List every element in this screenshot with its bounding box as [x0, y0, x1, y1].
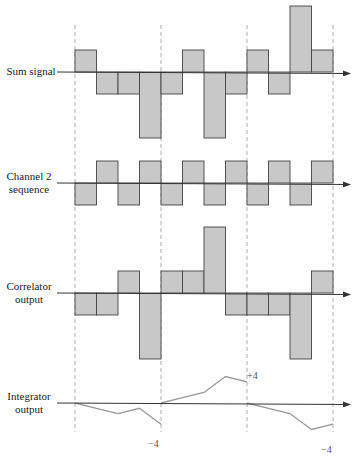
chip-bar [312, 271, 334, 293]
chip-bar [97, 293, 119, 315]
integrator-output-label: Integrator output [2, 390, 56, 416]
integrator-output-waveform [57, 377, 350, 430]
chip-bar [75, 50, 97, 72]
chip-bar [118, 271, 140, 293]
chip-bar [247, 50, 269, 72]
chip-bar [204, 183, 226, 205]
sum-signal-label: Sum signal [4, 65, 58, 78]
sum-signal-waveform [57, 6, 350, 138]
integrator-value-bit3: −4 [321, 444, 332, 455]
chip-bar [226, 161, 248, 183]
chip-bar [269, 161, 291, 183]
correlator-output-label: Correlator output [2, 280, 56, 306]
chip-bar [118, 183, 140, 205]
chip-bar [204, 227, 226, 293]
channel-2-sequence-waveform [57, 161, 350, 205]
integrator-value-bit2: +4 [247, 370, 258, 381]
chip-bar [290, 293, 312, 359]
chip-bar [140, 72, 162, 138]
integrator-ramp [75, 403, 161, 424]
integrator-output-axis [57, 403, 350, 405]
channel-2-label-line1: Channel 2 [2, 170, 56, 183]
chip-bar [97, 72, 119, 94]
chip-bar [161, 183, 183, 205]
chip-bar [290, 183, 312, 205]
chip-bar [75, 293, 97, 315]
chip-bar [226, 293, 248, 315]
chip-bar [161, 72, 183, 94]
integrator-ramp [247, 403, 333, 430]
signal-rows [57, 6, 350, 430]
chip-bar [226, 72, 248, 94]
chip-bar [269, 293, 291, 315]
chip-bar [183, 271, 205, 293]
chip-bar [290, 6, 312, 72]
chip-bar [140, 161, 162, 183]
chip-bar [97, 161, 119, 183]
correlator-label-line1: Correlator [2, 280, 56, 293]
channel-2-label-line2: sequence [2, 183, 56, 196]
chip-bar [269, 72, 291, 94]
correlator-label-line2: output [2, 293, 56, 306]
chip-bar [161, 271, 183, 293]
chip-bar [312, 161, 334, 183]
integrator-label-line1: Integrator [2, 390, 56, 403]
chip-bar [140, 293, 162, 359]
sum-signal-label-text: Sum signal [4, 65, 58, 78]
integrator-value-bit1: −4 [148, 438, 159, 449]
chip-bar [118, 72, 140, 94]
chip-bar [247, 183, 269, 205]
chip-bar [183, 50, 205, 72]
chip-bar [75, 183, 97, 205]
chip-bar [247, 293, 269, 315]
chip-bar [204, 72, 226, 138]
integrator-label-line2: output [2, 403, 56, 416]
chip-bar [183, 161, 205, 183]
channel-2-sequence-label: Channel 2 sequence [2, 170, 56, 196]
integrator-ramp [161, 377, 247, 404]
chip-bar [312, 50, 334, 72]
correlator-output-waveform [57, 227, 350, 359]
